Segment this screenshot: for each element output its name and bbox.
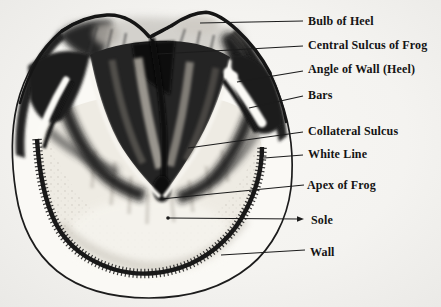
label-angle-of-wall-heel: Angle of Wall (Heel)	[308, 63, 415, 75]
label-bars: Bars	[308, 89, 333, 101]
label-bulb-of-heel: Bulb of Heel	[308, 15, 374, 27]
label-collateral-sulcus: Collateral Sulcus	[308, 125, 398, 137]
label-sole: Sole	[311, 214, 333, 226]
leader-dot-sole	[166, 216, 170, 220]
hoof-anatomy-figure: Bulb of HeelCentral Sulcus of FrogAngle …	[0, 0, 441, 307]
label-central-sulcus-of-frog: Central Sulcus of Frog	[308, 39, 427, 51]
label-wall: Wall	[310, 246, 335, 258]
label-white-line: White Line	[308, 148, 367, 160]
hoof-art	[12, 12, 292, 298]
label-apex-of-frog: Apex of Frog	[307, 179, 376, 191]
arrowhead-sole	[297, 216, 304, 222]
